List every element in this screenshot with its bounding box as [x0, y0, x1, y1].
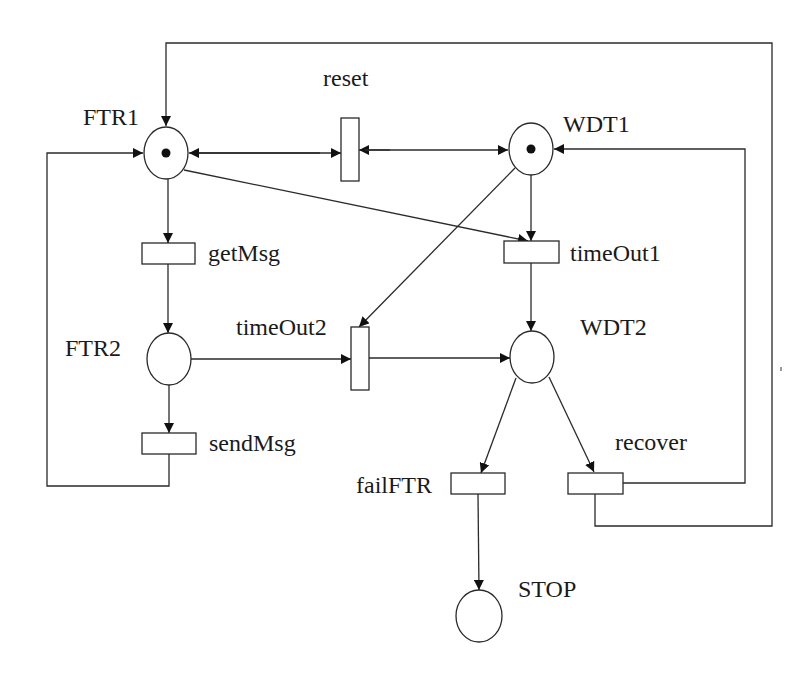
label-recover: recover — [615, 429, 687, 455]
label-ftr1: FTR1 — [83, 104, 139, 130]
label-wdt1: WDT1 — [563, 111, 630, 137]
arc-wdt2-to-failftr — [481, 378, 516, 473]
transition-timeout2[interactable] — [351, 327, 369, 390]
token-icon — [162, 149, 171, 158]
token-icon — [527, 145, 536, 154]
label-failftr: failFTR — [356, 472, 432, 498]
label-wdt2: WDT2 — [580, 314, 647, 340]
label-sendmsg: sendMsg — [209, 430, 296, 456]
place-ftr2[interactable] — [147, 333, 191, 385]
scan-speck — [780, 367, 782, 371]
place-stop[interactable] — [456, 590, 502, 642]
arc-wdt1-to-timeout2 — [359, 168, 515, 327]
place-ftr1[interactable] — [144, 127, 188, 179]
place-circle — [456, 590, 502, 642]
place-wdt1[interactable] — [509, 123, 553, 175]
transition-reset[interactable] — [341, 118, 359, 181]
transition-sendmsg[interactable] — [142, 433, 196, 454]
transition-failftr[interactable] — [451, 473, 505, 494]
transition-getmsg[interactable] — [142, 243, 195, 264]
arc-failftr-to-stop — [478, 494, 479, 590]
transition-recover[interactable] — [568, 473, 623, 494]
place-circle — [147, 333, 191, 385]
label-reset: reset — [323, 65, 369, 91]
transition-timeout1[interactable] — [504, 241, 559, 263]
label-timeout2: timeOut2 — [236, 314, 327, 340]
label-ftr2: FTR2 — [65, 335, 121, 361]
label-getmsg: getMsg — [208, 240, 280, 266]
arc-wdt2-to-recover — [549, 377, 594, 472]
place-wdt2[interactable] — [510, 331, 554, 383]
place-circle — [510, 331, 554, 383]
petri-net-diagram: FTR1 FTR2 WDT1 WDT2 STOP reset getMsg se… — [0, 0, 812, 680]
label-timeout1: timeOut1 — [570, 240, 661, 266]
label-stop: STOP — [518, 576, 576, 602]
